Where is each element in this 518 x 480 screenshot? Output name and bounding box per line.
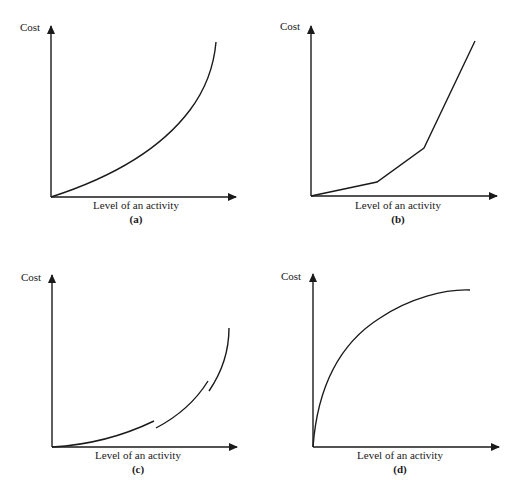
y-axis-label-b: Cost xyxy=(280,20,300,32)
x-axis-label-d: Level of an activity xyxy=(357,449,443,461)
caption-d: (d) xyxy=(393,463,406,475)
x-axis-label-c: Level of an activity xyxy=(95,449,181,461)
caption-b: (b) xyxy=(391,213,404,225)
panel-c xyxy=(52,275,237,447)
cost-behavior-diagrams xyxy=(0,0,518,480)
y-axis-label-c: Cost xyxy=(21,271,41,283)
cost-curve-b xyxy=(311,41,475,196)
cost-curve-d xyxy=(313,290,470,447)
panel-d xyxy=(313,274,499,447)
cost-curve-c-segment-2 xyxy=(156,381,208,428)
panel-b xyxy=(311,26,497,196)
cost-curve-c-segment-1 xyxy=(52,421,154,447)
cost-curve-c-segment-3 xyxy=(209,328,229,391)
x-axis-label-b: Level of an activity xyxy=(355,199,441,211)
cost-curve-a xyxy=(51,42,216,197)
panel-a xyxy=(51,26,236,197)
x-axis-label-a: Level of an activity xyxy=(93,199,179,211)
caption-c: (c) xyxy=(132,463,144,475)
caption-a: (a) xyxy=(130,213,143,225)
y-axis-label-a: Cost xyxy=(20,21,40,33)
y-axis-label-d: Cost xyxy=(281,270,301,282)
